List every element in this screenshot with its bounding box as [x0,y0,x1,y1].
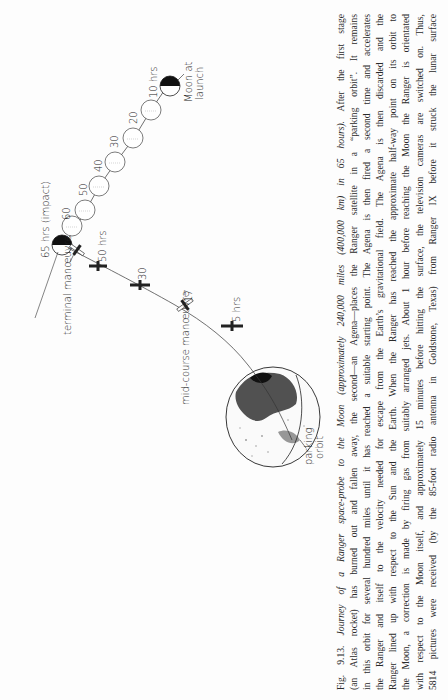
label-mid-course-manoeuvre: mid-course manœuvre [180,291,191,405]
label-terminal-manoeuvre: terminal manœuvre [62,235,73,335]
caption-line-6: the Moon, a correction is made by firing… [399,14,412,690]
moon-40hrs-icon [89,176,109,196]
caption-line-3: in this orbit for several hundred miles … [360,14,373,690]
figure-number: Fig. 9.13. [335,635,346,690]
label-moon-30: 30 [109,135,120,148]
label-moon-at-launch-2: launch [194,67,205,100]
moon-30hrs-icon [105,152,125,172]
terminal-leader-line [35,252,58,318]
book-page: Moon at launch 10 hrs 20 30 40 50 60 65 … [0,0,448,700]
figure-title: Journey of a Ranger space-probe to the M… [335,121,346,635]
label-moon-40: 40 [93,159,104,172]
label-parking-orbit-2: orbit [314,436,325,459]
label-probe-30: 30 [137,267,148,280]
label-probe-50hrs: 50 hrs [97,230,108,262]
caption-line-2: (an Atlas rocket) has burned out and fal… [347,14,360,690]
label-moon-at-launch-1: Moon at [183,61,194,102]
caption-line-8: 5814 pictures were received (by the 85-f… [426,14,439,690]
caption-line-4: the Ranger and itself to the velocity ne… [373,14,386,690]
label-moon-10hrs: 10 hrs [148,66,159,98]
label-moon-50: 50 [78,183,89,196]
moon-at-launch-icon [160,76,180,96]
caption-line-1: Fig. 9.13. Journey of a Ranger space-pro… [334,14,347,690]
caption-line-5: Ranger lined up with respect to the Sun … [386,14,399,690]
moon-20hrs-icon [123,128,143,148]
probe-30hrs-icon [130,280,150,290]
figure-caption: Fig. 9.13. Journey of a Ranger space-pro… [334,14,440,690]
moon-50hrs-icon [75,200,95,220]
caption-line-7: with respect to the Moon itself, and app… [413,14,426,690]
label-moon-65-impact: 65 hrs (impact) [40,181,51,258]
label-moon-20: 20 [128,111,139,124]
label-probe-5hrs: 5 hrs [231,297,242,322]
moon-10hrs-icon [141,100,161,120]
label-moon-60: 60 [61,207,72,220]
